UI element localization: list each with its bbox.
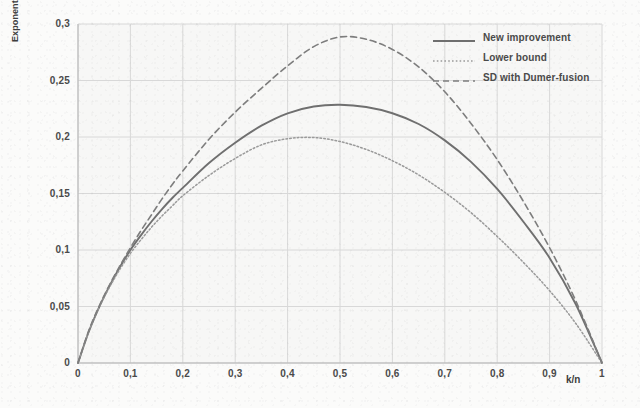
y-axis-tick-label: 0,05 <box>28 301 70 312</box>
y-axis-tick-label: 0,15 <box>28 188 70 199</box>
x-axis-title: k/n <box>566 374 580 385</box>
y-axis-tick-label: 0,3 <box>28 18 70 29</box>
x-axis-tick-label: 0,3 <box>215 368 255 379</box>
y-axis-tick-label: 0,1 <box>28 244 70 255</box>
x-axis-tick-label: 0,1 <box>110 368 150 379</box>
x-axis-tick-label: 0,8 <box>477 368 517 379</box>
chart-legend: New improvementLower boundSD with Dumer-… <box>432 27 618 87</box>
x-axis-tick-label: 0,4 <box>268 368 308 379</box>
x-axis-tick-label: 0,2 <box>163 368 203 379</box>
legend-item-label: Lower bound <box>483 52 547 63</box>
y-axis-tick-label: 0,25 <box>28 75 70 86</box>
legend-item[interactable]: SD with Dumer-fusion <box>432 67 618 87</box>
x-axis-tick-label: 0,9 <box>530 368 570 379</box>
x-axis-tick-label: 1 <box>582 368 622 379</box>
x-axis-tick-label: 0,5 <box>320 368 360 379</box>
legend-line-swatch <box>432 52 476 62</box>
y-axis-title: Exponent complexity <box>10 0 20 42</box>
legend-item[interactable]: New improvement <box>432 27 618 47</box>
x-axis-tick-label: 0 <box>58 368 98 379</box>
legend-line-swatch <box>432 72 476 82</box>
legend-item-label: SD with Dumer-fusion <box>483 72 589 83</box>
y-axis-tick-label: 0,2 <box>28 131 70 142</box>
x-axis-tick-label: 0,6 <box>372 368 412 379</box>
legend-item-label: New improvement <box>483 32 571 43</box>
x-axis-tick-label: 0,7 <box>425 368 465 379</box>
legend-line-swatch <box>432 32 476 42</box>
chart-figure: 00,050,10,150,20,250,3 00,10,20,30,40,50… <box>0 0 640 408</box>
y-axis-tick-label: 0 <box>28 357 70 368</box>
legend-item[interactable]: Lower bound <box>432 47 618 67</box>
